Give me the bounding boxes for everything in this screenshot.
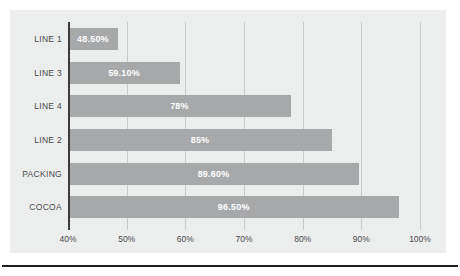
value-tick-label: 40% — [59, 234, 76, 244]
bar-value-label: 78% — [68, 95, 291, 117]
page-divider-rule — [2, 265, 458, 267]
category-label: LINE 2 — [0, 129, 62, 151]
value-tick-label: 90% — [353, 234, 370, 244]
category-label: LINE 4 — [0, 95, 62, 117]
category-label: COCOA — [0, 196, 62, 218]
bar-row[interactable]: 48.50% — [68, 28, 118, 50]
value-tick-label: 70% — [235, 234, 252, 244]
bar-row[interactable]: 85% — [68, 129, 332, 151]
chart-page: 48.50%59.10%78%85%89.60%96.50% LINE 1LIN… — [0, 0, 460, 276]
bar-value-label: 89.60% — [68, 163, 359, 185]
chart-panel: 48.50%59.10%78%85%89.60%96.50% LINE 1LIN… — [10, 10, 446, 253]
plot-area: 48.50%59.10%78%85%89.60%96.50% LINE 1LIN… — [68, 22, 420, 224]
value-axis-line — [68, 22, 70, 230]
bar-row[interactable]: 89.60% — [68, 163, 359, 185]
category-axis: LINE 1LINE 3LINE 4LINE 2PACKINGCOCOA — [0, 22, 62, 224]
bar-row[interactable]: 96.50% — [68, 196, 399, 218]
bar-value-label: 59.10% — [68, 62, 180, 84]
bar-value-label: 48.50% — [68, 28, 118, 50]
bar-row[interactable]: 78% — [68, 95, 291, 117]
category-label: PACKING — [0, 163, 62, 185]
bar-value-label: 96.50% — [68, 196, 399, 218]
value-tick-label: 100% — [409, 234, 431, 244]
value-tick-label: 80% — [294, 234, 311, 244]
category-label: LINE 1 — [0, 28, 62, 50]
category-label: LINE 3 — [0, 62, 62, 84]
value-tick-label: 50% — [118, 234, 135, 244]
value-tick-label: 60% — [177, 234, 194, 244]
value-axis-tick-labels: 40%50%60%70%80%90%100% — [68, 234, 420, 248]
bar-value-label: 85% — [68, 129, 332, 151]
bar-row[interactable]: 59.10% — [68, 62, 180, 84]
gridline — [420, 22, 421, 230]
